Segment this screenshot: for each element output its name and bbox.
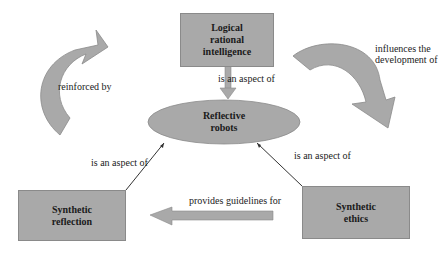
node-line: rational <box>203 34 251 46</box>
reinforced-by-label: reinforced by <box>58 81 112 92</box>
node-line: Synthetic <box>52 204 92 216</box>
node-line: Logical <box>203 22 251 34</box>
synthetic-reflection-node: Synthetic reflection <box>18 190 126 241</box>
top-aspect-label: is an aspect of <box>218 73 275 84</box>
top-arrow-head <box>220 88 236 99</box>
node-line: robots <box>184 122 264 134</box>
node-line: reflection <box>52 216 92 228</box>
left-aspect-label: is an aspect of <box>91 157 148 168</box>
node-line: ethics <box>336 213 376 225</box>
right-aspect-arrowhead <box>257 143 261 148</box>
influences-label-line2: development of <box>375 54 437 65</box>
node-line: Synthetic <box>336 201 376 213</box>
reflective-robots-label: Reflective robots <box>184 110 264 134</box>
synthetic-ethics-node: Synthetic ethics <box>302 186 410 239</box>
node-line: intelligence <box>203 46 251 58</box>
right-aspect-label: is an aspect of <box>294 150 351 161</box>
guidelines-label: provides guidelines for <box>189 195 281 206</box>
guidelines-arrow <box>150 207 273 225</box>
node-line: Reflective <box>184 110 264 122</box>
logical-rational-intelligence-node: Logical rational intelligence <box>180 13 274 67</box>
influences-label-line1: influences the <box>375 43 431 54</box>
